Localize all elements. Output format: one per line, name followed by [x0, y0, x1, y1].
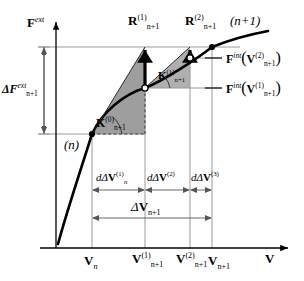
curve-label-start: (n) — [64, 138, 79, 151]
x-tick-label-v1: V(1)n+1 — [132, 252, 163, 265]
diagram-svg — [0, 0, 304, 281]
x-axis-label: V — [265, 252, 274, 265]
x-tick-label-vn: Vn — [84, 254, 97, 267]
residual-label-2: R(2)n+1 — [185, 14, 216, 27]
x-tick-label-v2: V(2)n+1 — [176, 252, 207, 265]
y-axis-label: Fext — [27, 16, 44, 29]
marker-converged — [209, 44, 215, 50]
residual-label-1: R(1)n+1 — [128, 14, 159, 27]
curve-label-end: (n+1) — [230, 14, 260, 27]
stiffness-label-1: K(1)n+1 — [158, 70, 185, 81]
x-tick-label-vn1: Vn+1 — [208, 254, 230, 267]
leader-lines — [205, 58, 222, 88]
dimension-delta-f-arrowheads — [41, 47, 47, 134]
marker-iterate-1 — [142, 85, 148, 91]
delta-force-label: ΔFextn+1 — [2, 83, 38, 95]
stiffness-label-0: K(0)n+1 — [96, 117, 126, 129]
figure-canvas: Fext ΔFextn+1 R(1)n+1 R(2)n+1 (n+1) (n) … — [0, 0, 304, 281]
total-increment-label: ΔVn+1 — [131, 200, 161, 213]
internal-force-label-2: Fint(V(2)n+1) — [226, 50, 281, 66]
increment-label-1: dΔV(1)n — [96, 172, 127, 183]
marker-iterate-2 — [187, 55, 193, 61]
increment-label-2: dΔV(2) — [147, 172, 175, 183]
increment-label-3: dΔV(3) — [191, 172, 219, 183]
internal-force-label-1: Fint(V(1)n+1) — [226, 80, 281, 96]
marker-state-n — [89, 131, 95, 137]
